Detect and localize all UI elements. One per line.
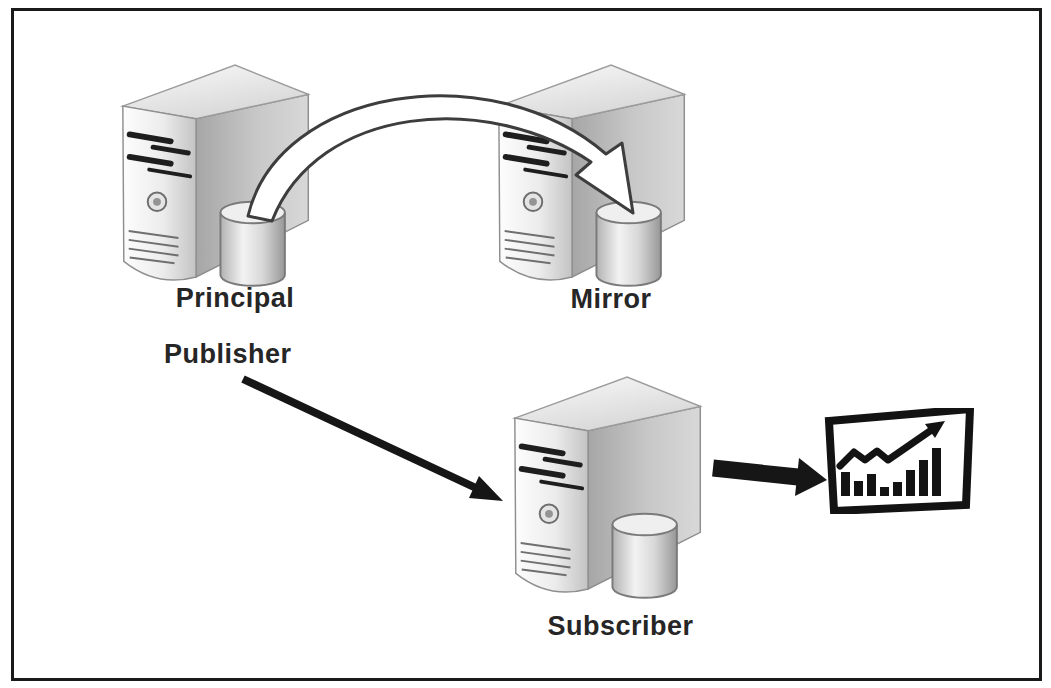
mirror-label: Mirror [536, 284, 686, 315]
publisher-label: Publisher [164, 339, 292, 370]
bar-chart-report-icon [824, 408, 976, 514]
diagram-canvas: Principal Mirror Publisher Subscriber [0, 0, 1051, 688]
mirror-server-icon [492, 58, 697, 288]
principal-label: Principal [160, 283, 310, 314]
subscriber-label: Subscriber [533, 611, 708, 642]
principal-server-icon [116, 58, 321, 288]
subscriber-server-icon [508, 370, 713, 600]
